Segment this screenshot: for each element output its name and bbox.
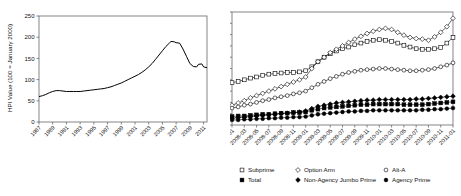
series-marker — [230, 106, 234, 110]
series-line — [232, 18, 453, 105]
series-marker — [347, 110, 351, 114]
series-marker — [352, 37, 357, 42]
series-marker — [267, 98, 271, 102]
hpi-data-line — [39, 41, 207, 96]
series-marker — [396, 102, 400, 106]
series-marker — [451, 36, 455, 40]
series-marker — [445, 107, 449, 111]
legend-item-subprime[interactable]: Subprime — [240, 166, 275, 173]
series-marker — [420, 97, 425, 102]
series-marker — [255, 75, 259, 79]
series-marker — [414, 108, 418, 112]
series-marker — [414, 97, 419, 102]
legend-item-alt-a[interactable]: Alt-A — [384, 166, 406, 173]
series-marker — [445, 101, 449, 105]
series-marker — [439, 101, 443, 105]
series-marker — [359, 68, 363, 72]
series-marker — [408, 69, 412, 73]
series-marker — [298, 91, 302, 95]
series-marker — [365, 39, 369, 43]
series-marker — [279, 116, 283, 120]
series-marker — [420, 108, 424, 112]
hpi-y-tick-label: 0 — [31, 119, 35, 125]
series-marker — [310, 86, 314, 90]
series-marker — [439, 107, 443, 111]
hpi-x-tick-label: 1993 — [70, 124, 83, 137]
series-marker — [396, 108, 400, 112]
series-subprime — [230, 36, 455, 85]
delinquency-series-group — [230, 16, 455, 122]
series-marker — [352, 99, 357, 104]
series-marker — [359, 109, 363, 113]
series-marker — [402, 103, 406, 107]
series-marker — [365, 109, 369, 113]
hpi-x-tick-label: 1991 — [57, 124, 70, 137]
series-marker — [371, 67, 375, 71]
series-marker — [414, 103, 418, 107]
series-marker — [377, 27, 382, 32]
series-marker — [236, 105, 240, 109]
series-marker — [371, 29, 376, 34]
hpi-x-tick-label: 2003 — [139, 124, 152, 137]
legend-item-agency-prime[interactable]: Agency Prime — [384, 176, 431, 183]
hpi-x-tick-label: 1997 — [98, 124, 111, 137]
series-marker — [414, 69, 418, 73]
series-marker — [389, 97, 394, 102]
series-marker — [334, 75, 338, 79]
series-marker — [433, 102, 437, 106]
series-marker — [390, 39, 394, 43]
series-marker — [248, 95, 253, 100]
series-marker — [242, 98, 247, 103]
series-marker — [426, 38, 431, 43]
hpi-x-tick-label: 2005 — [153, 124, 166, 137]
series-marker — [377, 38, 381, 42]
series-marker — [310, 113, 314, 117]
series-marker — [230, 118, 234, 122]
series-marker — [402, 108, 406, 112]
series-marker — [383, 97, 388, 102]
series-marker — [408, 97, 413, 102]
series-marker — [260, 91, 265, 96]
series-marker — [230, 81, 234, 85]
series-marker — [395, 30, 400, 35]
delinquency-legend: SubprimeOption ArmAlt-ATotalNon-Agency J… — [240, 166, 431, 183]
series-marker — [255, 101, 259, 105]
legend-marker-filled-circle — [384, 178, 388, 182]
hpi-y-tick-label: 150 — [24, 56, 35, 62]
legend-item-option-arm[interactable]: Option Arm — [296, 166, 335, 173]
series-marker — [420, 68, 424, 72]
series-marker — [377, 97, 382, 102]
series-marker — [451, 100, 455, 104]
series-marker — [420, 103, 424, 107]
legend-item-non-agency-jumbo-prime[interactable]: Non-Agency Jumbo Prime — [296, 176, 377, 183]
series-marker — [390, 67, 394, 71]
hpi-x-tick-label: 1987 — [29, 124, 42, 137]
series-marker — [432, 95, 437, 100]
series-marker — [451, 94, 456, 99]
series-marker — [384, 108, 388, 112]
legend-marker-filled-square — [240, 178, 244, 182]
series-marker — [414, 47, 418, 51]
series-marker — [285, 82, 290, 87]
series-marker — [438, 95, 443, 100]
series-marker — [401, 97, 406, 102]
series-marker — [267, 72, 271, 76]
series-marker — [433, 47, 437, 51]
series-marker — [291, 92, 295, 96]
series-marker — [316, 82, 320, 86]
series-marker — [279, 84, 284, 89]
hpi-y-tick-label: 100 — [24, 77, 35, 83]
legend-marker-open-circle — [384, 168, 388, 172]
series-marker — [408, 108, 412, 112]
series-marker — [384, 102, 388, 106]
series-marker — [408, 103, 412, 107]
series-marker — [433, 107, 437, 111]
series-marker — [297, 77, 302, 82]
delinquency-chart-panel: 0%2%4%6%8%10%12%14%16%18%20% 2008-012008… — [230, 0, 461, 196]
series-marker — [347, 71, 351, 75]
legend-item-total[interactable]: Total — [240, 176, 261, 183]
legend-marker-open-diamond — [296, 168, 301, 173]
series-marker — [389, 27, 394, 32]
series-marker — [445, 41, 449, 45]
series-marker — [334, 101, 339, 106]
